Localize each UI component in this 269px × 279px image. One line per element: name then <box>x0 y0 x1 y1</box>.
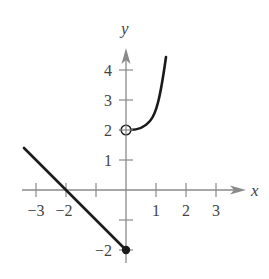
y-tick-label: −2 <box>95 242 112 259</box>
x-axis-label: x <box>250 181 259 200</box>
x-tick-label: 1 <box>152 202 160 219</box>
x-axis <box>22 186 246 195</box>
y-tick-label: 3 <box>104 92 112 109</box>
x-tick-label: 2 <box>182 202 190 219</box>
y-tick-label: 2 <box>104 122 112 139</box>
y-tick-label: 4 <box>104 62 112 79</box>
x-tick-label: 3 <box>212 202 220 219</box>
x-tick-label: −2 <box>55 202 72 219</box>
x-tick-labels: −3 −2 1 2 3 <box>27 202 220 219</box>
piecewise-function-graph: x y −3 −2 1 2 3 4 3 2 1 −2 <box>0 0 269 279</box>
closed-endpoint-dot <box>122 246 130 254</box>
y-tick-label: 1 <box>104 152 112 169</box>
y-tick-labels: 4 3 2 1 −2 <box>95 62 112 259</box>
x-tick-label: −3 <box>27 202 44 219</box>
y-axis-label: y <box>119 19 129 38</box>
cubic-piece <box>130 57 166 130</box>
y-axis <box>122 48 131 263</box>
